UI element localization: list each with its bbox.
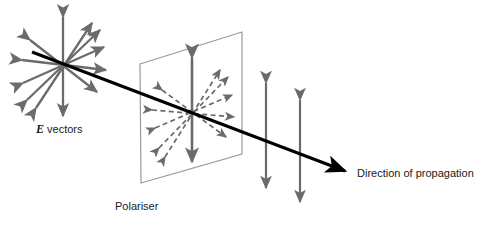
propagation-ray	[32, 52, 345, 171]
unpolarised-e-vector-star	[22, 17, 106, 116]
e-vectors-text: vectors	[44, 123, 83, 135]
e-vectors-label: E vectors	[36, 123, 83, 135]
e-vectors-symbol: E	[36, 122, 44, 136]
direction-of-propagation-label: Direction of propagation	[357, 168, 474, 179]
polarisation-diagram: E vectors Polariser Direction of propaga…	[0, 0, 497, 226]
diagram-canvas	[0, 0, 497, 226]
polariser-label: Polariser	[115, 201, 158, 212]
